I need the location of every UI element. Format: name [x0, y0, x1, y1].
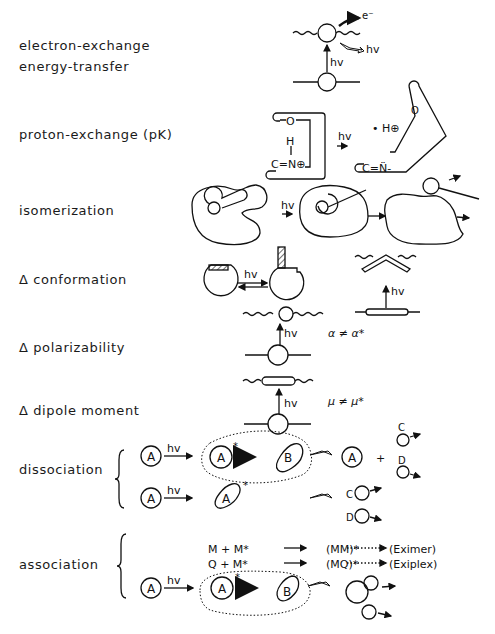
oxygen-label: O — [286, 115, 295, 128]
excited-star: * — [233, 441, 238, 452]
hv-label: hv — [244, 268, 258, 281]
mu-inequality: μ ≠ μ* — [327, 395, 364, 408]
hv-label: hv — [167, 442, 181, 455]
dissociation-diagram — [115, 431, 420, 523]
species-A-excited: A — [218, 582, 227, 596]
hv-label: hv — [338, 130, 352, 143]
hv-label: hv — [167, 484, 181, 497]
excited-star: * — [243, 480, 248, 491]
fragment-C: C — [346, 489, 353, 500]
isomerization-diagram — [192, 176, 479, 245]
polarizability-diagram — [243, 307, 323, 365]
fragment-D: D — [346, 512, 354, 523]
cn-lone-label: C=N̈- — [362, 162, 391, 175]
alpha-inequality: α ≠ α* — [328, 327, 365, 340]
reaction-reactants: Q + M* — [208, 558, 248, 571]
plus-sign: + — [376, 452, 385, 465]
proton-label: • H⊕ — [372, 122, 399, 135]
hv-label: hv — [366, 43, 380, 56]
species-A-excited: A — [217, 451, 226, 465]
species-A: A — [147, 450, 156, 464]
reaction-product: (Exiplex) — [389, 558, 437, 571]
hv-label: hv — [330, 56, 344, 69]
hydrogen-label: H — [286, 135, 294, 148]
oxygen-label: O — [411, 105, 419, 116]
species-B: B — [284, 451, 292, 465]
species-A-excited: A — [222, 492, 231, 506]
reaction-product: (Eximer) — [389, 543, 436, 556]
hv-label: hv — [284, 327, 298, 340]
hv-label: hv — [167, 574, 181, 587]
hv-label: hv — [281, 199, 295, 212]
fragment-D: D — [398, 455, 406, 466]
fragment-C: C — [398, 422, 405, 433]
hv-label: hv — [284, 397, 298, 410]
electron-symbol: e⁻ — [362, 10, 373, 21]
species-B: B — [283, 585, 291, 599]
hv-label: hv — [391, 285, 405, 298]
dipole-moment-diagram — [243, 377, 313, 434]
reaction-reactants: M + M* — [208, 543, 249, 556]
electron-transfer-diagram — [293, 18, 364, 91]
reaction-complex: (MM)* — [326, 543, 360, 556]
conformation-diagram — [204, 247, 420, 315]
species-A: A — [348, 451, 357, 465]
species-A: A — [147, 582, 156, 596]
excited-star: * — [235, 572, 240, 583]
reaction-complex: (MQ)* — [326, 558, 359, 571]
species-A: A — [147, 492, 156, 506]
cn-plus-label: C=N⊕ — [271, 158, 305, 171]
diagram-canvas: e⁻ hv hv O H C=N⊕ hv • H⊕ O C=N̈- — [0, 0, 495, 634]
